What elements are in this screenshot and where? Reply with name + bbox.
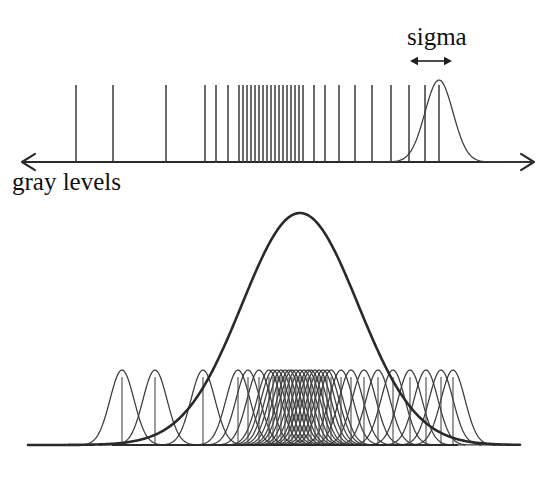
- figure-canvas: sigma gray levels: [0, 0, 546, 477]
- sigma-arrow-right-head-icon: [444, 57, 452, 65]
- sigma-label: sigma: [407, 23, 467, 50]
- gray-level-sample-ticks: [76, 85, 439, 162]
- top-panel-gray-levels: [22, 80, 534, 170]
- gray-levels-axis-label: gray levels: [12, 168, 121, 195]
- kernel-density-figure: sigma gray levels: [0, 0, 546, 477]
- sigma-kernel-curve: [356, 80, 534, 162]
- sigma-measure-marker: sigma: [407, 23, 467, 65]
- sigma-arrow-left-head-icon: [410, 57, 418, 65]
- bottom-panel-density-estimate: [28, 213, 520, 445]
